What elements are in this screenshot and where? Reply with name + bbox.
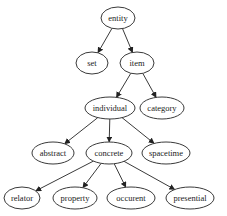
edge-concrete-to-occurrent [114, 164, 126, 188]
arrow-icon [36, 161, 94, 191]
node-label: item [129, 58, 144, 68]
edge-concrete-to-property [83, 163, 101, 187]
node-abstract: abstract [32, 142, 74, 164]
node-label: spacetime [149, 148, 183, 158]
node-item: item [120, 52, 154, 74]
edge-item-to-category [143, 73, 156, 97]
arrow-icon [123, 29, 133, 53]
node-relator: relator [4, 187, 40, 209]
arrow-icon [109, 119, 110, 142]
node-occurrent: occurent [107, 187, 155, 209]
node-label: concrete [95, 148, 124, 158]
node-concrete: concrete [86, 142, 132, 164]
edge-individual-to-abstract [65, 118, 98, 144]
node-label: set [87, 58, 97, 68]
arrow-icon [124, 161, 175, 189]
node-label: property [61, 193, 91, 203]
arrow-icon [114, 164, 126, 188]
node-label: individual [93, 103, 128, 113]
arrow-icon [116, 73, 130, 97]
edge-individual-to-spacetime [122, 118, 154, 144]
edge-individual-to-concrete [109, 119, 110, 142]
node-category: category [140, 97, 184, 119]
arrow-icon [143, 73, 156, 97]
edge-entity-to-set [98, 28, 112, 53]
node-spacetime: spacetime [142, 142, 190, 164]
node-label: occurent [116, 193, 146, 203]
node-label: entity [108, 13, 128, 23]
node-entity: entity [101, 7, 135, 29]
node-set: set [76, 52, 108, 74]
edge-concrete-to-relator [36, 161, 94, 191]
node-label: relator [11, 193, 33, 203]
arrow-icon [98, 28, 112, 53]
node-label: abstract [40, 148, 67, 158]
arrow-icon [83, 163, 101, 187]
edge-concrete-to-presential [124, 161, 175, 189]
arrow-icon [122, 118, 154, 144]
edge-item-to-individual [116, 73, 130, 97]
node-presential: presential [166, 187, 214, 209]
node-label: category [147, 103, 177, 113]
ontology-tree-diagram: entitysetitemindividualcategoryabstractc… [0, 0, 227, 216]
nodes-layer: entitysetitemindividualcategoryabstractc… [4, 7, 214, 209]
arrow-icon [65, 118, 98, 144]
node-individual: individual [85, 97, 135, 119]
node-label: presential [173, 193, 207, 203]
node-property: property [53, 187, 97, 209]
edge-entity-to-item [123, 29, 133, 53]
